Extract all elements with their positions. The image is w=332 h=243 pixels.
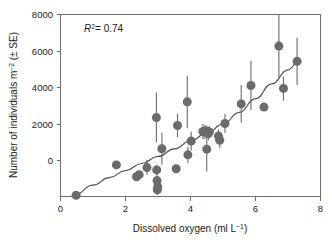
r-squared-value: = 0.74 xyxy=(95,23,124,34)
data-point xyxy=(112,160,121,169)
data-point xyxy=(172,164,181,173)
data-point xyxy=(152,113,161,122)
data-point xyxy=(152,165,161,174)
data-point xyxy=(142,163,151,172)
data-point xyxy=(259,103,268,112)
x-tick-label-4: 4 xyxy=(188,203,193,214)
x-tick-label-0: 0 xyxy=(58,203,63,214)
data-point xyxy=(187,136,196,145)
scatter-plot-figure: 8000 6000 4000 2000 0 0 2 4 6 8 Dissolve… xyxy=(0,0,332,243)
x-tick-label-8: 8 xyxy=(318,203,323,214)
data-point xyxy=(183,97,192,106)
x-axis-tick-labels: 0 2 4 6 8 xyxy=(58,203,323,214)
data-point xyxy=(72,191,81,200)
data-point xyxy=(173,121,182,130)
data-point xyxy=(279,84,288,93)
data-point xyxy=(153,182,162,191)
y-tick-label-2000: 2000 xyxy=(32,119,53,130)
y-axis-title-pre: Number of individuals m xyxy=(8,71,19,178)
x-axis-ticks xyxy=(61,197,321,201)
x-axis-title-tail: ) xyxy=(244,223,247,234)
chart-canvas: 8000 6000 4000 2000 0 0 2 4 6 8 Dissolve… xyxy=(0,0,332,243)
y-axis-tick-labels: 8000 6000 4000 2000 0 xyxy=(32,9,53,166)
data-point xyxy=(157,144,166,153)
data-point xyxy=(135,170,144,179)
data-point xyxy=(274,42,283,51)
plot-frame xyxy=(61,15,321,197)
r-squared-annotation: R2= 0.74 xyxy=(84,23,124,35)
data-point xyxy=(246,81,255,90)
y-tick-label-6000: 6000 xyxy=(32,46,53,57)
data-point xyxy=(237,99,246,108)
x-axis-title: Dissolved oxygen (ml L−1) xyxy=(133,223,247,235)
x-tick-label-2: 2 xyxy=(123,203,128,214)
r-squared-symbol: R xyxy=(84,23,91,34)
y-tick-label-8000: 8000 xyxy=(32,9,53,20)
y-tick-label-0: 0 xyxy=(48,155,53,166)
y-tick-label-4000: 4000 xyxy=(32,82,53,93)
data-point xyxy=(183,150,192,159)
data-point xyxy=(293,57,302,66)
y-axis-title: Number of individuals m−2 (± SE) xyxy=(8,32,20,178)
y-axis-ticks xyxy=(57,15,61,161)
data-points-layer xyxy=(72,42,302,200)
data-point xyxy=(202,145,211,154)
x-axis-title-main: Dissolved oxygen (ml L xyxy=(133,223,237,234)
data-point xyxy=(220,119,229,128)
y-axis-title-post: (± SE) xyxy=(8,32,19,63)
data-point xyxy=(205,127,214,136)
x-tick-label-6: 6 xyxy=(253,203,258,214)
data-point xyxy=(215,136,224,145)
